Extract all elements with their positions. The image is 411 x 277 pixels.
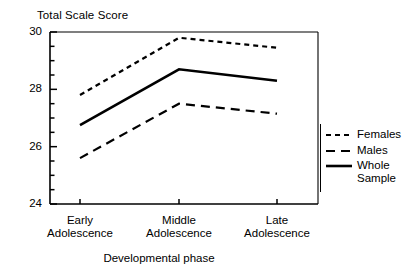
- data-series: [80, 38, 277, 158]
- legend-item[interactable]: Females: [326, 128, 411, 141]
- chart-figure: Total Scale Score 30282624 EarlyAdolesce…: [0, 0, 411, 277]
- x-tick-label: LateAdolescence: [222, 214, 332, 239]
- x-tick-label: MiddleAdolescence: [124, 214, 234, 239]
- legend-swatch-dashed: [326, 144, 352, 156]
- legend-swatch-solid: [326, 159, 352, 171]
- legend-label: Females: [357, 128, 401, 141]
- y-tick-label: 26: [16, 141, 42, 153]
- legend-swatch-dotted: [326, 128, 352, 140]
- y-tick-label: 24: [16, 198, 42, 210]
- legend-divider: [320, 124, 321, 192]
- axis-ticks: [50, 32, 277, 204]
- y-tick-label: 30: [16, 26, 42, 38]
- legend-item[interactable]: Males: [326, 144, 411, 157]
- y-tick-label: 28: [16, 84, 42, 96]
- legend-label: Males: [357, 144, 388, 157]
- legend-item[interactable]: Whole Sample: [326, 159, 411, 184]
- series-line-whole-sample: [80, 69, 277, 125]
- series-line-males: [80, 104, 277, 158]
- series-line-females: [80, 38, 277, 95]
- legend-label: Whole Sample: [357, 159, 396, 184]
- x-axis-title: Developmental phase: [0, 252, 318, 264]
- chart-legend: FemalesMalesWhole Sample: [326, 128, 411, 187]
- x-tick-label: EarlyAdolescence: [25, 214, 135, 239]
